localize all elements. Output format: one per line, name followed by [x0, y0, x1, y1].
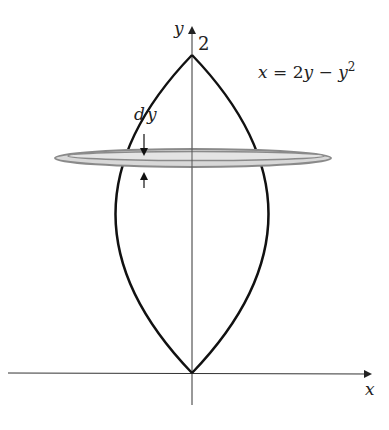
x-axis [8, 373, 370, 374]
left-boundary-curve [116, 55, 193, 373]
curve-equation-label: x = 2y − y2 [258, 60, 355, 82]
y-axis-label: y [173, 18, 184, 38]
disc-slice [55, 148, 331, 168]
y-tick-label-2: 2 [198, 33, 209, 54]
x-axis-label: x [365, 379, 375, 399]
solid-of-revolution-diagram: y 2 x x = 2y − y2 dy [0, 0, 389, 430]
right-boundary-curve [192, 55, 269, 373]
